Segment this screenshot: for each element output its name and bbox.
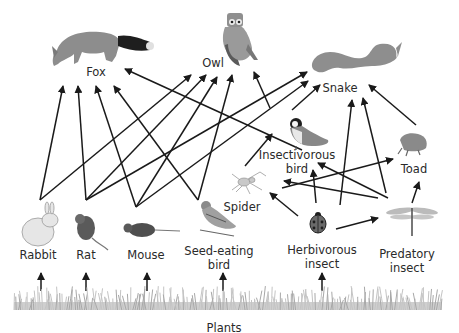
label-insectivorous-bird-line2: bird (286, 163, 308, 176)
illustrations-layer (0, 0, 459, 333)
rabbit-icon (22, 202, 58, 246)
label-toad: Toad (401, 163, 427, 176)
snake-icon (312, 42, 402, 72)
herbivorous-insect-icon (310, 212, 326, 233)
spider-icon (232, 172, 266, 194)
mouse-icon (124, 223, 181, 237)
insectivorous-bird-icon (290, 118, 328, 150)
label-seed-eating-bird-line1: Seed-eating (184, 245, 253, 258)
label-herbivorous-insect-line2: insect (305, 258, 339, 271)
owl-icon (223, 13, 258, 66)
label-herbivorous-insect-line1: Herbivorous (287, 244, 357, 257)
label-mouse: Mouse (127, 249, 164, 262)
label-rabbit: Rabbit (19, 249, 56, 262)
label-plants: Plants (207, 322, 242, 333)
label-predatory-insect-line2: insect (390, 262, 424, 275)
label-seed-eating-bird-line2: bird (208, 259, 230, 272)
label-fox: Fox (86, 66, 106, 79)
label-snake: Snake (323, 82, 358, 95)
toad-icon (398, 133, 427, 156)
label-rat: Rat (76, 249, 95, 262)
label-owl: Owl (202, 57, 224, 70)
food-web-diagram: Fox Owl Snake Insectivorous bird Toad Sp… (0, 0, 459, 333)
rat-icon (75, 214, 108, 250)
predatory-insect-icon (386, 206, 439, 236)
fox-icon (52, 32, 154, 66)
label-spider: Spider (224, 201, 261, 214)
label-predatory-insect-line1: Predatory (379, 248, 435, 261)
label-insectivorous-bird-line1: Insectivorous (259, 149, 335, 162)
